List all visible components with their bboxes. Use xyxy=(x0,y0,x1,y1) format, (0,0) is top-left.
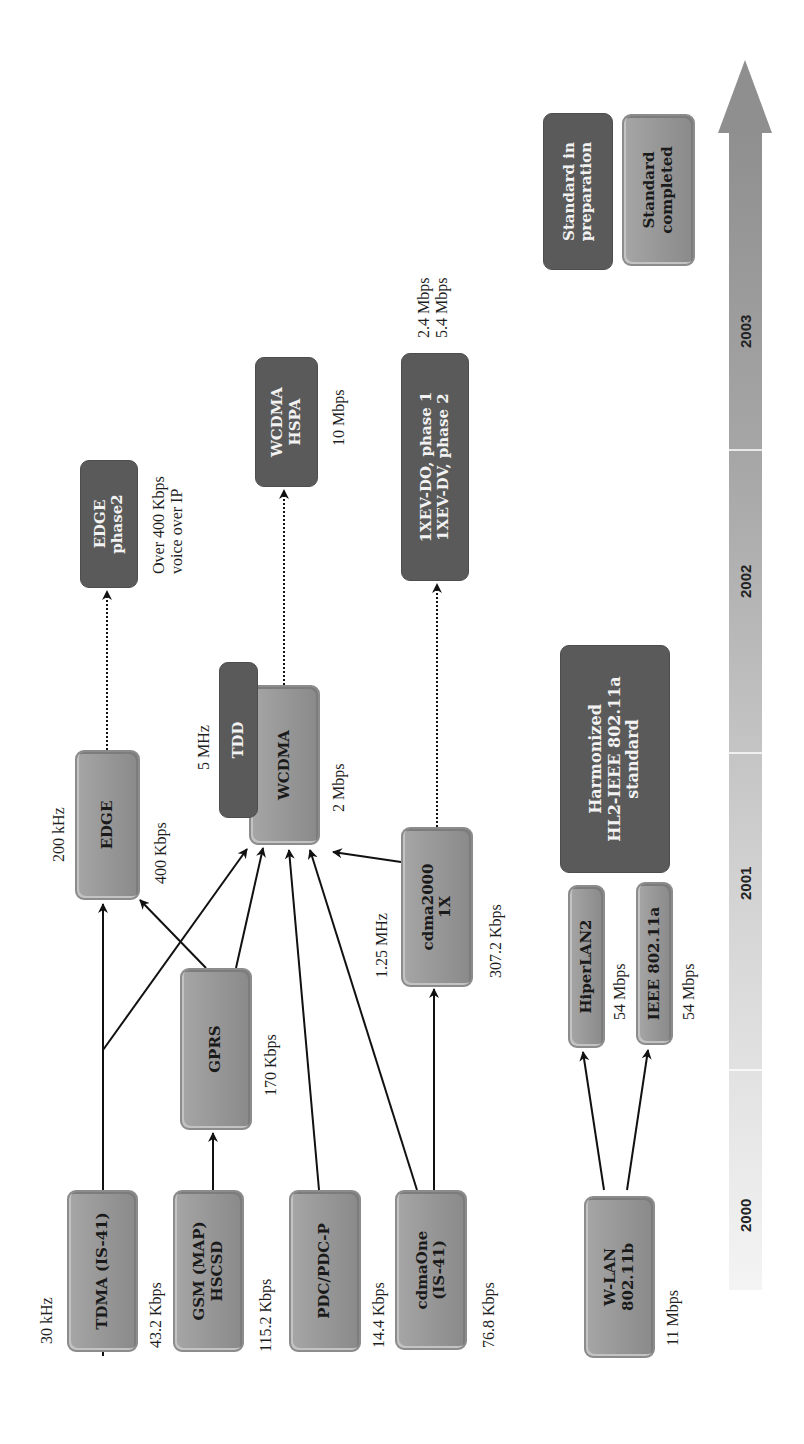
1xev-rate-label: 2.4 Mbps 5.4 Mbps xyxy=(415,278,450,338)
node-wcdma-hspa: WCDMA HSPA xyxy=(255,357,318,487)
hspa-rate-label: 10 Mbps xyxy=(330,390,348,446)
pdc-rate-label: 14.4 Kbps xyxy=(370,1282,388,1348)
cdma2000-frequency-label: 1.25 MHz xyxy=(373,913,391,978)
node-harmonized-hl2-ieee: Harmonized HL2-IEEE 802.11a standard xyxy=(560,645,670,873)
year-label-2000: 2000 xyxy=(737,1199,754,1232)
node-hiperlan2: HiperLAN2 xyxy=(568,885,605,1048)
node-wcdma: WCDMA xyxy=(249,685,320,845)
node-gsm-hscsd: GSM (MAP) HSCSD xyxy=(173,1190,244,1352)
tdd-frequency-label: 5 MHz xyxy=(195,725,213,770)
hiperlan2-rate-label: 54 Mbps xyxy=(611,964,629,1020)
ieee80211a-rate-label: 54 Mbps xyxy=(680,964,698,1020)
node-gprs: GPRS xyxy=(180,968,252,1130)
arrow-pdc-wcdma xyxy=(289,850,319,1190)
node-1xev: 1XEV-DO, phase 1 1XEV-DV, phase 2 xyxy=(401,353,469,581)
tdma-rate-label: 43.2 Kbps xyxy=(147,1282,165,1348)
arrow-wlan-ieee80211a xyxy=(627,1050,648,1190)
node-edge: EDGE xyxy=(75,750,140,900)
cdmaone-rate-label: 76.8 Kbps xyxy=(480,1282,498,1348)
cdma2000-rate-label: 307.2 Kbps xyxy=(487,904,505,978)
node-edge-phase2: EDGE phase2 xyxy=(80,460,138,588)
arrow-cdma2000-wcdma xyxy=(333,852,401,862)
wcdma-rate-label: 2 Mbps xyxy=(330,764,348,812)
node-cdma2000-1x: cdma2000 1X xyxy=(401,827,473,987)
edge-rate-label: 400 Kbps xyxy=(152,822,170,884)
gsm-rate-label: 115.2 Kbps xyxy=(257,1279,275,1352)
arrow-gprs-wcdma xyxy=(236,848,263,968)
year-label-2001: 2001 xyxy=(737,867,754,900)
arrow-gprs-edge xyxy=(140,900,206,968)
node-pdc: PDC/PDC-P xyxy=(289,1190,361,1352)
diagram-canvas: 2000 2001 2002 2003 Standard in preparat… xyxy=(0,0,804,1444)
year-label-2002: 2002 xyxy=(737,565,754,598)
wlan-rate-label: 11 Mbps xyxy=(664,1290,682,1346)
timeline-arrow xyxy=(718,60,772,1290)
node-wlan-80211b: W-LAN 802.11b xyxy=(584,1196,655,1358)
gprs-rate-label: 170 Kbps xyxy=(262,1034,280,1096)
node-cdmaone: cdmaOne (IS-41) xyxy=(395,1190,467,1350)
tdma-frequency-label: 30 kHz xyxy=(38,1297,56,1344)
node-tdma: TDMA (IS-41) xyxy=(67,1190,138,1352)
arrow-wlan-hiperlan2 xyxy=(583,1052,604,1190)
node-tdd: TDD xyxy=(219,662,258,818)
legend-standard-in-preparation: Standard in preparation xyxy=(543,113,613,270)
legend-standard-completed: Standard completed xyxy=(622,114,695,266)
edge-frequency-label: 200 kHz xyxy=(50,807,68,862)
node-ieee-80211a: IEEE 802.11a xyxy=(636,882,673,1045)
year-label-2003: 2003 xyxy=(737,315,754,348)
edge-phase2-rate-label: Over 400 Kbps voice over IP xyxy=(150,476,185,574)
